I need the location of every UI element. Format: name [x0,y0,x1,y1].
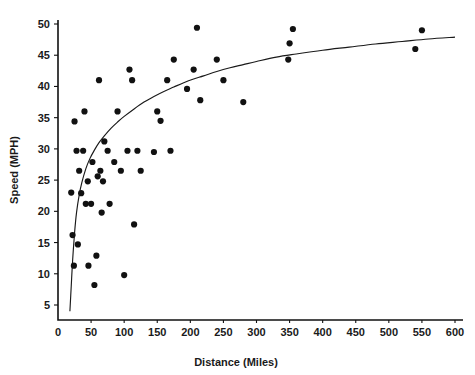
x-tick-label: 600 [446,326,464,338]
axes [54,20,463,323]
data-point [167,148,173,154]
x-axis-tick-labels: 050100150200250300350400450500550600 [55,326,464,338]
y-tick-label: 15 [38,237,50,249]
x-tick-label: 350 [280,326,298,338]
x-tick-label: 450 [347,326,365,338]
y-axis-title: Speed (MPH) [8,136,20,204]
y-tick-label: 5 [44,299,50,311]
data-point [214,56,220,62]
data-point [220,77,226,83]
x-tick-label: 50 [85,326,97,338]
data-point [71,263,77,269]
data-point [118,168,124,174]
data-point [99,209,105,215]
data-point [85,178,91,184]
data-point [97,168,103,174]
data-point [107,201,113,207]
x-axis-title: Distance (Miles) [194,356,278,368]
data-point [80,148,86,154]
x-tick-label: 100 [115,326,133,338]
data-point [69,232,75,238]
data-point [290,26,296,32]
y-tick-label: 25 [38,174,50,186]
data-point [154,108,160,114]
data-point [164,77,170,83]
data-point [71,118,77,124]
data-point [91,282,97,288]
scatter-chart: 050100150200250300350400450500550600 510… [0,0,475,375]
data-point [129,77,135,83]
data-point [114,108,120,114]
data-point [171,56,177,62]
y-tick-label: 20 [38,205,50,217]
data-point [105,148,111,154]
data-point [285,56,291,62]
y-tick-label: 50 [38,18,50,30]
y-tick-label: 35 [38,112,50,124]
data-point [85,263,91,269]
data-point [151,149,157,155]
y-tick-label: 30 [38,143,50,155]
data-point [96,77,102,83]
data-point [75,241,81,247]
x-tick-label: 550 [413,326,431,338]
data-point [126,66,132,72]
data-point [76,168,82,174]
data-point [197,97,203,103]
data-point [412,46,418,52]
data-point [83,201,89,207]
data-point [93,253,99,259]
y-axis-tick-labels: 5101520253035404550 [38,18,50,311]
data-point [89,159,95,165]
data-point [81,108,87,114]
x-tick-label: 0 [55,326,61,338]
data-point [184,86,190,92]
data-point [88,201,94,207]
data-point [138,168,144,174]
trend-curve [70,37,455,311]
x-tick-label: 250 [214,326,232,338]
data-point [157,118,163,124]
data-point [286,40,292,46]
data-point [121,272,127,278]
plot-area: 050100150200250300350400450500550600 510… [0,0,475,375]
x-tick-label: 500 [380,326,398,338]
data-point [124,148,130,154]
y-tick-label: 40 [38,80,50,92]
data-point [134,148,140,154]
x-tick-label: 150 [148,326,166,338]
y-tick-label: 45 [38,49,50,61]
y-tick-label: 10 [38,268,50,280]
data-point [419,27,425,33]
data-point [68,190,74,196]
x-tick-label: 300 [247,326,265,338]
data-point [95,173,101,179]
data-point [191,66,197,72]
x-tick-label: 400 [313,326,331,338]
data-point [131,221,137,227]
data-point [100,178,106,184]
data-point [101,138,107,144]
x-tick-label: 200 [181,326,199,338]
data-point [194,25,200,31]
data-point [78,190,84,196]
data-point [240,99,246,105]
data-point [111,159,117,165]
data-point [73,148,79,154]
